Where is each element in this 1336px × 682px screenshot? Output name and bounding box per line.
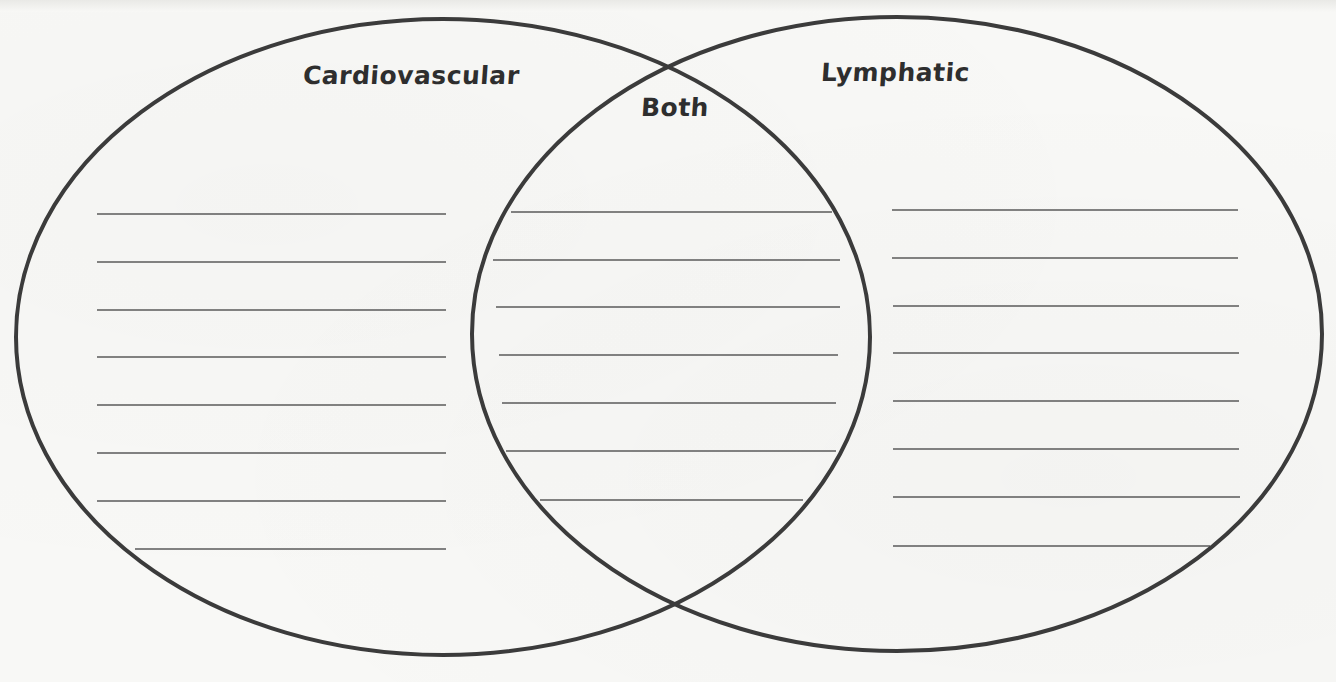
cardiovascular-circle [16,19,870,655]
right-writing-lines [892,210,1240,546]
cardiovascular-label: Cardiovascular [302,63,520,88]
lymphatic-circle [472,17,1322,651]
both-label: Both [640,95,710,120]
overlap-writing-lines [493,212,840,500]
lymphatic-label: Lymphatic [820,60,971,85]
left-writing-lines [97,214,446,549]
venn-diagram-worksheet: Cardiovascular Lymphatic Both [0,0,1336,682]
